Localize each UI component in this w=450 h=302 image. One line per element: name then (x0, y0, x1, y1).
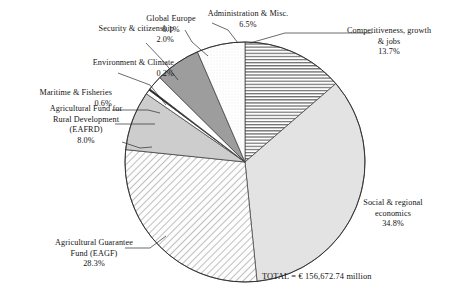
slice-label-environment-climate: Environment & Climate 0.2% (44, 58, 174, 79)
slice-label-competitiveness-growth-jobs: Competitiveness, growth & jobs 13.7% (330, 26, 448, 58)
slice-label-eafrd: Agricultural Fund for Rural Development … (22, 104, 150, 146)
slice-label-social-regional-economics: Social & regional economics 34.8% (340, 198, 446, 230)
slice-label-administration-misc: Administration & Misc. 6.5% (192, 9, 304, 30)
total-label: TOTAL = € 156,672.74 million (262, 272, 372, 281)
pie-chart-figure: Security & citizenship 2.0% Environment … (0, 0, 450, 302)
slice-label-eagf: Agricultural Guarantee Fund (EAGF) 28.3% (30, 238, 158, 270)
